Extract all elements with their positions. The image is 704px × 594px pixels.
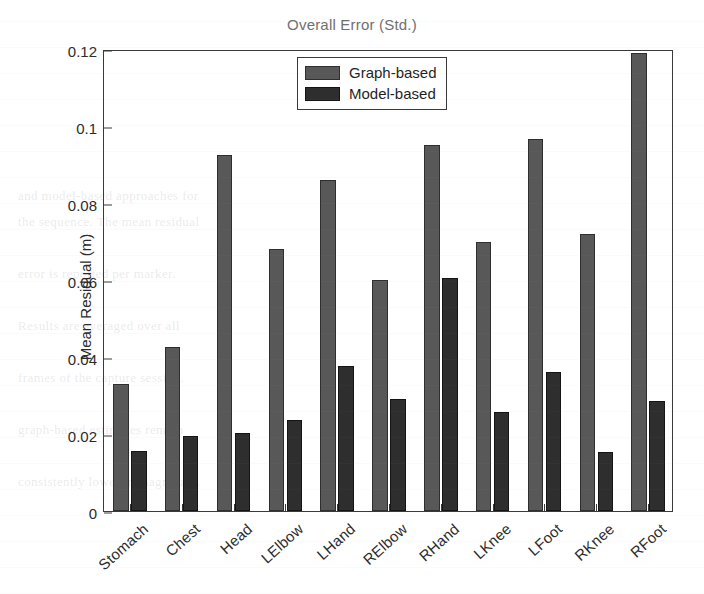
y-tick-label: 0.02 [68, 428, 97, 445]
y-tick-label: 0 [89, 505, 97, 522]
x-tick-mark [285, 504, 286, 511]
y-tick-mark [104, 513, 112, 514]
bar-lknee-model-based[interactable] [494, 412, 510, 511]
bar-rknee-graph-based[interactable] [580, 234, 596, 511]
x-tick-label-lelbow: LElbow [258, 520, 307, 566]
bar-lfoot-graph-based[interactable] [528, 139, 544, 511]
bar-chest-model-based[interactable] [183, 436, 199, 511]
legend-item-model-based[interactable]: Model-based [305, 83, 437, 104]
x-tick-label-stomach: Stomach [95, 520, 151, 573]
legend-item-graph-based[interactable]: Graph-based [305, 62, 437, 83]
x-tick-mark [596, 504, 597, 511]
bar-stomach-graph-based[interactable] [113, 384, 129, 511]
bar-rfoot-graph-based[interactable] [631, 53, 647, 511]
x-tick-label-rknee: RKnee [571, 520, 617, 564]
x-tick-label-lknee: LKnee [470, 520, 514, 562]
y-tick-label: 0.06 [68, 274, 97, 291]
y-axis-label: Mean Residual (m) [77, 234, 94, 361]
y-tick-label: 0.08 [68, 197, 97, 214]
x-tick-mark [234, 504, 235, 511]
x-tick-mark [182, 504, 183, 511]
bar-rknee-model-based[interactable] [598, 452, 614, 511]
y-tick-label: 0.1 [76, 120, 97, 137]
x-tick-mark [544, 504, 545, 511]
plot-area: 00.020.040.060.080.10.12 [103, 50, 673, 512]
x-tick-mark [130, 504, 131, 511]
bar-rhand-graph-based[interactable] [424, 145, 440, 511]
x-tick-label-chest: Chest [162, 520, 203, 560]
x-tick-mark [648, 504, 649, 511]
bar-rfoot-model-based[interactable] [649, 401, 665, 511]
series-0-swatch [305, 66, 340, 80]
x-tick-label-lfoot: LFoot [525, 520, 566, 559]
legend-label: Model-based [349, 85, 436, 102]
x-tick-label-rhand: RHand [415, 520, 462, 565]
bar-head-model-based[interactable] [235, 433, 251, 511]
bar-head-graph-based[interactable] [217, 155, 233, 511]
bar-lelbow-graph-based[interactable] [269, 249, 285, 511]
x-tick-label-head: Head [216, 520, 255, 557]
bar-lfoot-model-based[interactable] [546, 372, 562, 511]
x-tick-label-lhand: LHand [314, 520, 359, 563]
bars-layer [104, 51, 672, 511]
x-tick-mark [441, 504, 442, 511]
chart-legend[interactable]: Graph-based Model-based [297, 57, 447, 110]
bar-rhand-model-based[interactable] [442, 278, 458, 511]
legend-label: Graph-based [349, 64, 437, 81]
chart-title: Overall Error (Std.) [0, 16, 704, 33]
x-tick-mark [389, 504, 390, 511]
series-1-swatch [305, 87, 340, 101]
x-tick-mark [493, 504, 494, 511]
bar-relbow-model-based[interactable] [390, 399, 406, 511]
bar-lelbow-model-based[interactable] [287, 420, 303, 511]
y-tick-label: 0.04 [68, 351, 97, 368]
x-tick-mark [337, 504, 338, 511]
bar-lhand-model-based[interactable] [338, 366, 354, 511]
x-tick-label-relbow: RElbow [360, 520, 411, 568]
bar-lhand-graph-based[interactable] [320, 180, 336, 511]
y-tick-label: 0.12 [68, 43, 97, 60]
bar-relbow-graph-based[interactable] [372, 280, 388, 511]
bar-chest-graph-based[interactable] [165, 347, 181, 511]
bar-lknee-graph-based[interactable] [476, 242, 492, 512]
bar-stomach-model-based[interactable] [131, 451, 147, 511]
x-tick-label-rfoot: RFoot [627, 520, 669, 561]
bar-chart-figure: Overall Error (Std.) Mean Residual (m) 0… [0, 0, 704, 594]
